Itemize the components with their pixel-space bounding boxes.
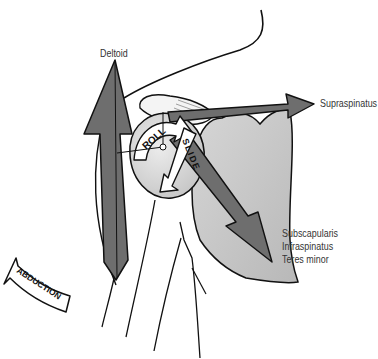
deltoid-arrow: [84, 60, 132, 280]
neck-outline: [124, 10, 263, 98]
label-teres-minor: Teres minor: [282, 253, 329, 266]
arm-line-3: [154, 238, 181, 351]
arm-line-4: [180, 222, 200, 358]
shoulder-diagram: ROLL SLIDE ABDUCTION Deltoid Supraspinat…: [0, 0, 378, 359]
label-deltoid: Deltoid: [100, 47, 128, 60]
arm-line-2: [126, 200, 155, 337]
pivot-point: [160, 144, 166, 150]
diagram-artwork: ROLL SLIDE ABDUCTION: [0, 0, 378, 359]
label-infraspinatus: Infraspinatus: [282, 240, 333, 253]
label-supraspinatus: Supraspinatus: [320, 97, 377, 110]
label-subscapularis: Subscapularis: [282, 227, 338, 240]
